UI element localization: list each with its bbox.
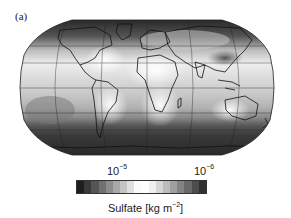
colorbar-title: Sulfate [kg m−2]: [0, 201, 291, 214]
colorbar-tick-1e-5: 10−5: [107, 163, 127, 177]
colorbar: [76, 180, 207, 194]
sulfate-world-map: [0, 0, 291, 160]
colorbar-tick-1e-6: 10−6: [194, 163, 214, 177]
